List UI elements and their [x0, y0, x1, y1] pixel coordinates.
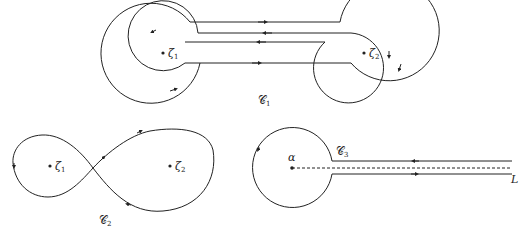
c3-label: 𝒞3: [336, 145, 348, 159]
svg-text:ζ1: ζ1: [168, 47, 178, 61]
arrow-icon: [170, 89, 176, 91]
zeta2-point: [362, 51, 365, 54]
arrow-icon: [152, 30, 156, 32]
contour-c1: [101, 0, 439, 103]
c1-right-inner-arc: [314, 33, 384, 103]
svg-text:ζ1: ζ1: [55, 160, 65, 174]
contour-figure: ζ1 ζ2 𝒞1 ζ1 ζ2 𝒞2 α 𝒞3 L: [0, 0, 523, 236]
c1-label: 𝒞1: [258, 94, 270, 108]
contour-diagram: ζ1 ζ2 𝒞1 ζ1 ζ2 𝒞2 α 𝒞3 L: [0, 0, 523, 236]
c1-right-outer-arc: [340, 0, 439, 81]
alpha-point: [290, 166, 294, 170]
svg-text:ζ2: ζ2: [175, 160, 185, 174]
c2-zeta2-point: [168, 164, 171, 167]
arrow-icon: [399, 64, 401, 70]
c1-left-outer-arc: [101, 3, 200, 103]
c2-label: 𝒞2: [99, 214, 111, 228]
c1-left-inner-arc: [128, 1, 198, 71]
svg-text:α: α: [288, 151, 296, 164]
zeta1-point: [161, 51, 164, 54]
ray-label: L: [510, 173, 518, 186]
c2-zeta1-point: [48, 164, 51, 167]
